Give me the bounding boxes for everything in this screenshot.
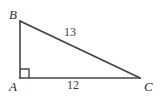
vertex-label-a: A: [9, 80, 17, 93]
triangle-side-hypotenuse-bc: [20, 21, 140, 78]
right-triangle-figure: B A C 13 12: [0, 0, 160, 103]
vertex-label-b: B: [9, 8, 17, 21]
side-length-label-base: 12: [67, 79, 79, 91]
side-length-label-hypotenuse: 13: [64, 26, 76, 38]
triangle-drawing: [0, 0, 160, 103]
vertex-label-c: C: [144, 80, 153, 93]
right-angle-marker-icon: [20, 69, 29, 78]
